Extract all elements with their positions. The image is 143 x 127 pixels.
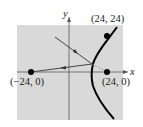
focus-right-dot	[104, 69, 110, 75]
curve-point-label: (24, 24)	[91, 13, 125, 25]
focus-left-dot	[28, 69, 34, 75]
curve-point-dot	[104, 33, 110, 39]
hyperbola-diagram: x y (−24, 0) (24, 0) (24, 24)	[0, 0, 143, 127]
x-axis-arrow-icon	[123, 70, 128, 74]
focus-left-label: (−24, 0)	[10, 76, 44, 88]
y-axis-label: y	[62, 8, 68, 19]
focus-right-label: (24, 0)	[102, 76, 130, 88]
